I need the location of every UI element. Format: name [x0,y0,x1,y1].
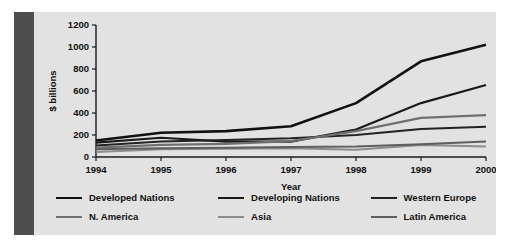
legend-swatch-icon [218,216,244,218]
x-tick-label: 1997 [280,164,301,175]
legend-label: Developed Nations [89,192,175,203]
x-tick-label: 2000 [475,164,496,175]
legend-item-western-europe[interactable]: Western Europe [371,188,496,207]
chart-legend: Developed Nations Developing Nations Wes… [34,188,496,234]
legend-label: Western Europe [404,192,477,203]
legend-swatch-icon [56,216,82,218]
x-tick-label: 1996 [215,164,236,175]
legend-label: Developing Nations [251,192,340,203]
x-tick-label: 1994 [85,164,107,175]
legend-label: Asia [251,211,271,222]
y-tick-label: 600 [73,85,89,96]
legend-label: Latin America [404,211,466,222]
legend-swatch-icon [218,197,244,199]
legend-label: N. America [89,211,138,222]
legend-item-developing-nations[interactable]: Developing Nations [218,188,370,207]
legend-swatch-icon [371,216,397,218]
x-tick-label: 1999 [410,164,431,175]
left-accent-bar [14,12,34,235]
y-tick-label: 800 [73,63,89,74]
legend-row-2: N. America Asia Latin America [34,207,496,226]
legend-item-latin-america[interactable]: Latin America [371,207,496,226]
figure-container: 0200400600800100012001994199519961997199… [0,0,510,247]
legend-swatch-icon [56,197,82,199]
series-line [96,45,486,141]
y-tick-label: 1200 [68,19,89,30]
legend-item-developed-nations[interactable]: Developed Nations [56,188,218,207]
y-tick-label: 400 [73,107,89,118]
y-tick-label: 200 [73,129,89,140]
legend-item-asia[interactable]: Asia [218,207,370,226]
legend-item-n-america[interactable]: N. America [56,207,218,226]
x-tick-label: 1998 [345,164,366,175]
y-tick-label: 1000 [68,41,89,52]
y-tick-label: 0 [84,151,89,162]
y-axis-title: $ billions [47,70,58,111]
x-tick-label: 1995 [150,164,172,175]
legend-swatch-icon [371,197,397,199]
legend-row-1: Developed Nations Developing Nations Wes… [34,188,496,207]
